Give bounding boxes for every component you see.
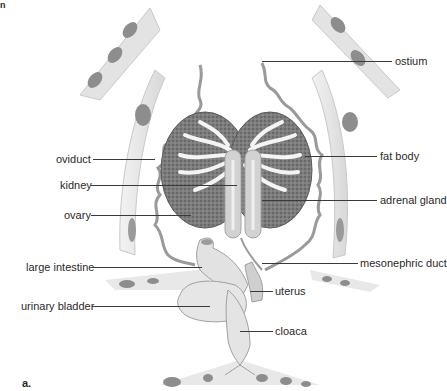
label-urinary-bladder: urinary bladder [21, 300, 94, 312]
leader-line-mesonephric-duct [262, 263, 358, 264]
label-kidney: kidney [60, 179, 92, 191]
label-adrenal-gland: adrenal gland [380, 194, 447, 206]
corner-mark: n [0, 0, 6, 10]
label-uterus: uterus [275, 285, 306, 297]
leader-line-large-intestine [92, 267, 202, 268]
label-cloaca: cloaca [275, 325, 307, 337]
leader-line-adrenal-gland [262, 200, 377, 201]
body-wall-right [312, 5, 400, 258]
label-large-intestine: large intestine [26, 261, 95, 273]
leader-line-ostium [262, 61, 392, 62]
body-wall-left [80, 8, 165, 255]
panel-letter: a. [22, 377, 31, 389]
label-mesonephric-duct: mesonephric duct [360, 257, 447, 269]
leader-line-urinary-bladder [92, 306, 210, 307]
leader-line-ovary [91, 215, 191, 216]
label-oviduct: oviduct [56, 153, 91, 165]
leader-line-fat-body [305, 156, 377, 157]
label-fat-body: fat body [380, 150, 419, 162]
leader-line-kidney [91, 185, 237, 186]
leader-line-uterus [250, 291, 273, 292]
leader-line-oviduct [93, 159, 155, 160]
label-ostium: ostium [395, 55, 427, 67]
anatomy-figure: n oviduct kidney ovary large intestine u… [0, 0, 447, 391]
label-ovary: ovary [64, 209, 91, 221]
leader-line-cloaca [240, 331, 273, 332]
